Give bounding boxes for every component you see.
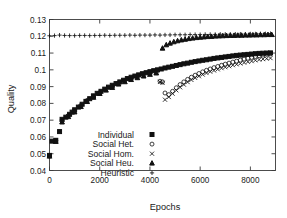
x-tick-label: 0: [47, 176, 52, 185]
x-tick-label: 4000: [141, 176, 160, 185]
y-axis-title: Quality: [6, 84, 16, 113]
y-tick-label: 0.04: [30, 167, 46, 176]
x-tick-label: 6000: [191, 176, 210, 185]
legend-label-heuristic: Heuristic: [101, 168, 135, 178]
y-tick-label: 0.05: [30, 150, 46, 159]
x-tick-label: 8000: [241, 176, 260, 185]
y-tick-label: 0.11: [31, 49, 47, 58]
y-tick-label: 0.07: [30, 116, 46, 125]
legend-marker-filled-square: [150, 133, 154, 137]
quality-vs-epochs-scatter-plot: 0.040.050.060.070.080.090.10.110.120.13 …: [0, 0, 287, 218]
y-tick-label: 0.12: [30, 32, 46, 41]
x-axis-title: Epochs: [150, 202, 181, 212]
legend-label-social-heu: Social Heu.: [90, 158, 134, 168]
legend-label-social-hom: Social Hom.: [88, 149, 134, 159]
y-tick-label: 0.06: [30, 133, 46, 142]
y-tick-label: 0.13: [30, 16, 46, 25]
legend-marker-glyph: [150, 133, 154, 137]
chart-figure: 0.040.050.060.070.080.090.10.110.120.13 …: [0, 0, 287, 218]
y-tick-label: 0.08: [30, 99, 46, 108]
data-point: [268, 51, 272, 55]
y-tick-label: 0.09: [30, 83, 46, 92]
legend-label-individual: Individual: [98, 130, 134, 140]
legend-label-social-het: Social Het.: [92, 139, 134, 149]
data-point: [58, 130, 62, 134]
y-tick-label: 0.1: [35, 66, 47, 75]
